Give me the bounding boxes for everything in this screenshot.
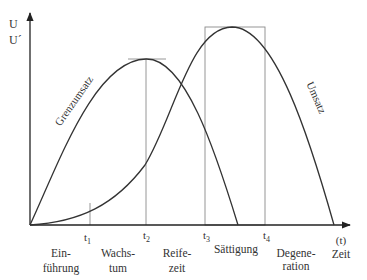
phase-wachstum-line1: Wachs- xyxy=(101,247,135,259)
time-mark-t3: t3 xyxy=(203,229,210,244)
time-mark-t1: t1 xyxy=(84,231,91,246)
y-axis-label-u-prime: U´ xyxy=(9,33,22,47)
phase-einfuehrung-line2: führung xyxy=(43,262,80,275)
curves xyxy=(30,27,334,225)
phase-wachstum-line2: tum xyxy=(109,262,127,274)
x-axis-label-t: (t) xyxy=(336,234,347,247)
x-axis-label-zeit: Zeit xyxy=(332,248,351,260)
product-lifecycle-diagram: U U´ Grenzumsatz Umsatz t1 t2 t3 t4 (t) … xyxy=(0,0,367,280)
time-mark-t4: t4 xyxy=(263,229,270,244)
phase-saettigung: Sättigung xyxy=(214,243,258,256)
phase-reifezeit-line1: Reife- xyxy=(163,247,192,259)
phase-degeneration-line2: ration xyxy=(283,260,310,272)
phase-reifezeit-line2: zeit xyxy=(169,262,186,274)
phase-degeneration-line1: Degene- xyxy=(277,247,316,260)
saturation-box xyxy=(205,27,265,225)
y-axis-label-u: U xyxy=(9,17,18,31)
phase-einfuehrung-line1: Ein- xyxy=(51,247,71,259)
grenzumsatz-label: Grenzumsatz xyxy=(52,73,95,128)
umsatz-label: Umsatz xyxy=(304,80,329,116)
phase-labels: Ein- führung Wachs- tum Reife- zeit Sätt… xyxy=(43,243,316,275)
axes xyxy=(30,13,350,225)
grenzumsatz-curve xyxy=(30,59,238,225)
time-mark-t2: t2 xyxy=(143,229,150,244)
